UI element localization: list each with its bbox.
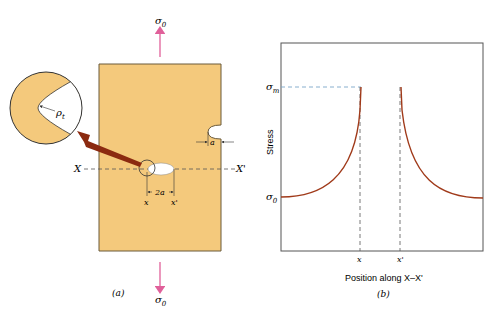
crack-right-label: x' [171,198,178,207]
crack-tip-zoom [10,70,90,146]
panel-b-chart: σm σ0 Stress x x' Position along X–X' (b… [265,43,483,299]
y-axis-label: Stress [265,129,275,155]
bottom-load-label: σ0 [155,294,167,308]
x-tick-x-prime: x' [397,255,404,264]
x-tick-x: x [357,255,362,264]
panel-a-label: (a) [112,288,125,298]
y-tick-sigma-0: σ0 [266,191,278,205]
crack-width-label: 2a [154,188,165,197]
panel-b-label: (b) [377,289,390,299]
stress-concentration-figure: σ0 σ0 X X' 2a x x' a ρt (a) σm σ0 Stre [0,0,491,317]
edge-crack-label: a [210,138,215,147]
section-left-label: X [73,163,82,174]
chart-frame [281,43,483,251]
stress-curve-right [401,87,483,198]
stress-curve-left [281,87,361,197]
panel-a: σ0 σ0 X X' 2a x x' a ρt (a) [10,15,246,308]
top-load-label: σ0 [155,15,167,29]
crack-left-label: x [144,198,149,207]
internal-crack [148,163,174,175]
y-tick-sigma-m: σm [266,81,280,95]
x-axis-label: Position along X–X' [345,273,423,283]
section-right-label: X' [235,163,246,174]
